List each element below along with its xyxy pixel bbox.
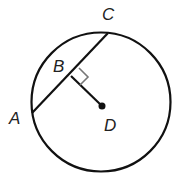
circle	[32, 33, 171, 172]
segment-bd	[71, 76, 102, 106]
right-angle-marker	[79, 68, 88, 85]
geometry-diagram: C B A D	[0, 0, 174, 189]
label-d: D	[104, 116, 116, 135]
label-b: B	[53, 57, 64, 76]
center-point-d	[99, 103, 106, 110]
label-c: C	[102, 5, 115, 24]
label-a: A	[8, 109, 20, 128]
